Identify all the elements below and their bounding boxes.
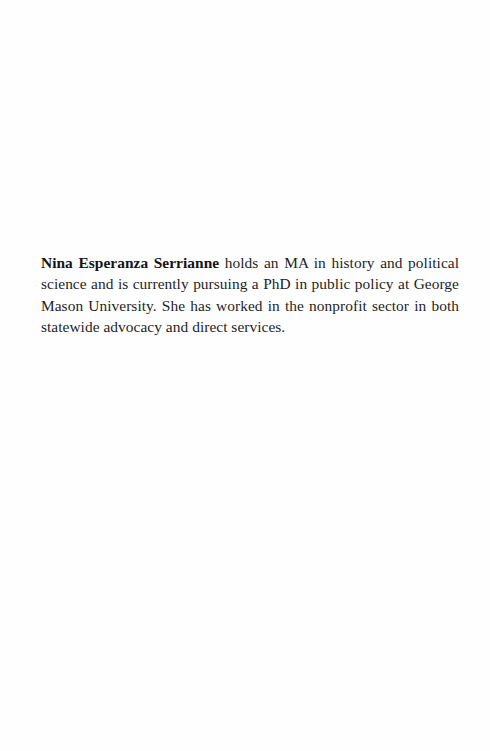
author-bio-paragraph: Nina Esperanza Serrianne holds an MA in … <box>41 252 459 338</box>
author-name: Nina Esperanza Serrianne <box>41 254 219 271</box>
document-page: Nina Esperanza Serrianne holds an MA in … <box>0 0 490 751</box>
